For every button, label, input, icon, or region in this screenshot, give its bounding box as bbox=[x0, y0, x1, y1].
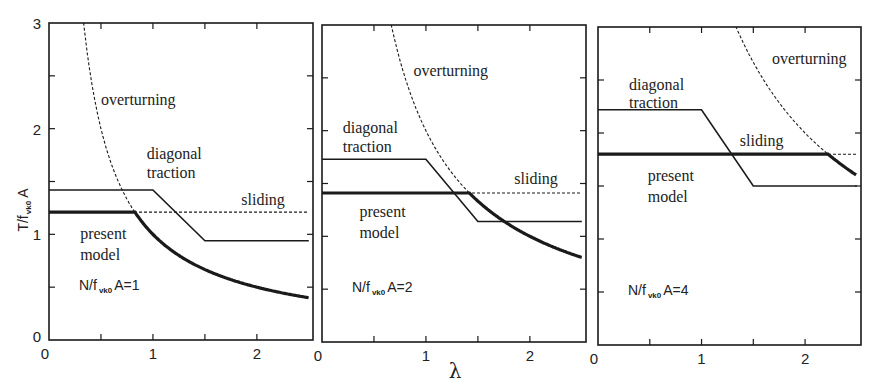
region-label: traction bbox=[147, 164, 196, 181]
region-label: sliding bbox=[514, 170, 558, 188]
three-panel-chart: 0120123overturningdiagonaltractionslidin… bbox=[0, 0, 875, 383]
region-label: present bbox=[648, 167, 695, 185]
region-label: model bbox=[359, 224, 400, 241]
x-tick-label: 0 bbox=[590, 350, 598, 367]
region-label: diagonal bbox=[147, 145, 203, 163]
panel-1: 0120123overturningdiagonaltractionslidin… bbox=[33, 15, 313, 362]
x-tick-label: 1 bbox=[697, 350, 705, 367]
region-label: model bbox=[80, 246, 121, 263]
figure: 0120123overturningdiagonaltractionslidin… bbox=[0, 0, 875, 383]
param-label: N/fvk0A=4 bbox=[628, 282, 689, 300]
x-tick-label: 1 bbox=[149, 345, 157, 362]
region-label: diagonal bbox=[343, 119, 399, 137]
series-diagonal-traction bbox=[598, 110, 857, 186]
x-tick-label: 1 bbox=[422, 347, 430, 364]
panel-2: 012overturningdiagonaltractionslidingpre… bbox=[314, 20, 586, 364]
region-label: overturning bbox=[772, 50, 847, 68]
region-label: sliding bbox=[241, 191, 285, 209]
x-tick-label: 2 bbox=[801, 350, 809, 367]
series-present-model bbox=[598, 154, 856, 175]
region-label: sliding bbox=[740, 132, 784, 150]
region-label: overturning bbox=[413, 62, 488, 80]
x-tick-label: 2 bbox=[253, 345, 261, 362]
panel-3: 012overturningdiagonaltractionslidingpre… bbox=[590, 22, 861, 367]
y-tick-label: 2 bbox=[33, 121, 41, 138]
y-tick-label: 1 bbox=[33, 226, 41, 243]
region-label: model bbox=[648, 188, 689, 205]
x-axis-title: λ bbox=[449, 359, 462, 383]
x-tick-label: 0 bbox=[314, 347, 322, 364]
param-label: N/fvk0A=2 bbox=[352, 279, 413, 297]
region-label: traction bbox=[343, 138, 392, 155]
region-label: traction bbox=[629, 94, 678, 111]
region-label: present bbox=[359, 203, 406, 221]
y-axis-title: T/fvk0 A bbox=[15, 188, 33, 232]
region-label: diagonal bbox=[629, 76, 685, 94]
series-overturning bbox=[734, 22, 856, 175]
x-tick-label: 0 bbox=[41, 345, 49, 362]
param-label: N/fvk0A=1 bbox=[79, 277, 140, 295]
y-tick-label: 0 bbox=[33, 328, 41, 345]
x-tick-label: 2 bbox=[526, 347, 534, 364]
region-label: present bbox=[80, 225, 127, 243]
y-tick-label: 3 bbox=[33, 15, 41, 32]
region-label: overturning bbox=[101, 91, 176, 109]
